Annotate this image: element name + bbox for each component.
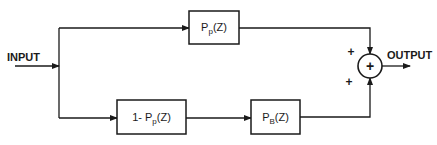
top-input-sign: + [347, 45, 354, 59]
pb-block: PB(Z) [251, 100, 300, 134]
block-diagram: INPUT Pp(Z) 1- Pp(Z) PB(Z) + + [0, 0, 437, 145]
one-minus-pp-block: 1- Pp(Z) [117, 100, 186, 134]
bottom-input-sign: + [345, 75, 352, 89]
summing-junction: + [358, 54, 382, 78]
output-label: OUTPUT [387, 49, 433, 61]
pp-block: Pp(Z) [189, 11, 239, 44]
wire-pb-to-sum [300, 78, 370, 117]
summing-junction-symbol: + [366, 58, 374, 74]
input-label: INPUT [7, 51, 40, 63]
